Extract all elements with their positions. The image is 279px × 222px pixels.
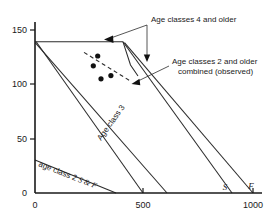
arrowhead-age-classes-2-combined — [132, 79, 141, 86]
label-s-endpoint: S — [223, 182, 228, 192]
data-point — [95, 53, 100, 58]
arrowhead-age-classes-4-right — [144, 55, 150, 63]
x-tick-label-0: 0 — [32, 200, 37, 210]
chart-figure: 150 100 50 0 0 500 1000 Age classes 4 an… — [0, 0, 279, 222]
y-tick-label-100: 100 — [12, 79, 27, 89]
label-f-endpoint: F — [247, 181, 254, 191]
label-age-class-2-text: age class 2 — [37, 159, 80, 183]
data-point — [98, 76, 103, 81]
y-tick-label-0: 0 — [22, 188, 27, 198]
annotation-age-classes-2-combined-line2: combined (observed) — [178, 67, 253, 76]
x-tick-label-500: 500 — [135, 200, 150, 210]
annotation-age-classes-2-combined-line1: Age classes 2 and older — [172, 57, 258, 66]
label-age-class-2-sf: S & F — [77, 175, 98, 190]
axes — [30, 22, 262, 193]
annotation-age-classes-4-and-older: Age classes 4 and older — [151, 15, 237, 24]
x-tick-label-1000: 1000 — [243, 200, 263, 210]
scatter-points — [91, 53, 114, 81]
y-tick-label-50: 50 — [17, 134, 27, 144]
data-point — [91, 63, 96, 68]
y-tick-label-150: 150 — [12, 25, 27, 35]
label-age-class-2: age class 2 S & F — [37, 159, 98, 190]
leader-age-classes-2-combined — [136, 66, 169, 82]
data-point — [108, 73, 113, 78]
label-age-class-3: Age class 3 — [95, 103, 127, 142]
annotation-leaders — [104, 25, 169, 85]
